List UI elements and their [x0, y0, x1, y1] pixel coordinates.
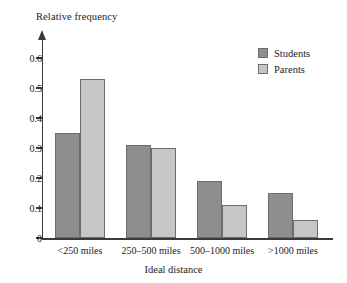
bar-parents-3 [293, 220, 318, 238]
bar-parents-2 [222, 205, 247, 238]
x-axis-title: Ideal distance [0, 264, 347, 275]
y-axis-arrow-icon [38, 30, 46, 40]
bar-students-0 [55, 133, 80, 238]
legend-label-parents: Parents [274, 64, 305, 75]
bar-students-2 [197, 181, 222, 238]
legend-item-parents: Parents [258, 62, 310, 76]
legend-item-students: Students [258, 46, 310, 60]
y-axis-tick-label: 0.4 [12, 113, 42, 124]
x-axis-label-2: 500–1000 miles [190, 245, 254, 256]
y-axis-tick-label: 0 [12, 233, 42, 244]
y-axis-tick-label: 0.5 [12, 83, 42, 94]
legend-swatch-icon-parents [258, 64, 268, 74]
x-axis-line [42, 238, 333, 240]
x-axis-label-0: <250 miles [58, 245, 103, 256]
y-axis-tick-label: 0.2 [12, 173, 42, 184]
bar-parents-0 [80, 79, 105, 238]
bar-parents-1 [151, 148, 176, 238]
y-axis-tick-label: 0.3 [12, 143, 42, 154]
bar-students-1 [126, 145, 151, 238]
y-axis-tick-label: 0.6 [12, 53, 42, 64]
y-axis-title: Relative frequency [36, 11, 117, 22]
legend-label-students: Students [274, 48, 310, 59]
x-axis-label-1: 250–500 miles [121, 245, 180, 256]
y-axis-line [42, 38, 43, 239]
legend: Students Parents [258, 46, 310, 78]
x-axis-label-3: >1000 miles [268, 245, 318, 256]
y-axis-tick-label: 0.1 [12, 203, 42, 214]
bar-students-3 [268, 193, 293, 238]
bar-chart-figure: Relative frequency 00.10.20.30.40.50.6 <… [0, 0, 347, 283]
legend-swatch-icon-students [258, 48, 268, 58]
